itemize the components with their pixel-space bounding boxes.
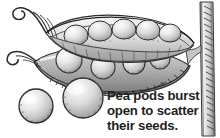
loose-pea-left <box>19 89 53 123</box>
pea <box>88 21 112 41</box>
caption-line-3: their seeds. <box>107 118 217 133</box>
pea <box>112 19 136 39</box>
loose-pea-center <box>63 78 103 118</box>
caption-line-2: open to scatter <box>107 103 217 118</box>
pea <box>159 24 181 42</box>
caption-text: Pea pods burst open to scatter their see… <box>107 88 217 133</box>
figure-illustration-with-caption: Pea pods burst open to scatter their see… <box>0 0 220 138</box>
caption-line-1: Pea pods burst <box>107 88 217 103</box>
pea <box>136 20 160 40</box>
